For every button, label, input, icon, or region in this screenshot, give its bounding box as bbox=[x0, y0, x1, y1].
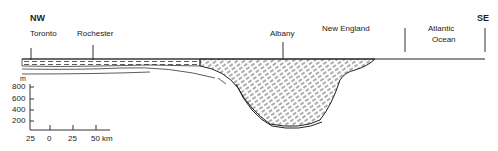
horizontal-tick-25-left: 25 bbox=[26, 134, 35, 143]
horizontal-tick-25: 25 bbox=[68, 134, 77, 143]
direction-nw: NW bbox=[30, 13, 45, 23]
sediment-basin bbox=[200, 59, 375, 126]
place-rochester: Rochester bbox=[77, 29, 113, 38]
place-albany: Albany bbox=[270, 29, 294, 38]
horizontal-tick-50km: 50 km bbox=[91, 134, 113, 143]
place-toronto: Toronto bbox=[30, 29, 57, 38]
cross-section-drawing bbox=[0, 0, 498, 151]
vertical-tick-200: 200 bbox=[12, 116, 25, 125]
horizontal-tick-0: 0 bbox=[47, 134, 51, 143]
vertical-tick-800: 800 bbox=[12, 82, 25, 91]
vertical-scale-unit: m bbox=[20, 75, 26, 82]
direction-se: SE bbox=[477, 13, 489, 23]
vertical-tick-400: 400 bbox=[12, 105, 25, 114]
place-atlantic: Atlantic bbox=[428, 24, 454, 33]
place-new-england: New England bbox=[322, 24, 370, 33]
vertical-tick-600: 600 bbox=[12, 94, 25, 103]
place-ocean: Ocean bbox=[432, 35, 456, 44]
